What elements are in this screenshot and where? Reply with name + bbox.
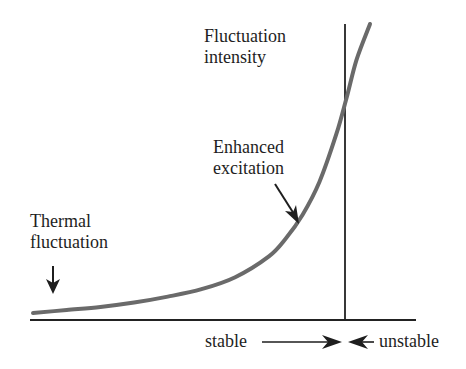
enhanced-excitation-arrow <box>275 184 299 224</box>
enhanced-excitation-label: Enhanced excitation <box>213 137 284 179</box>
fluctuation-curve <box>33 24 370 313</box>
thermal-fluctuation-label: Thermal fluctuation <box>30 211 108 253</box>
stable-arrow <box>262 335 342 349</box>
unstable-label: unstable <box>379 331 439 352</box>
stable-label: stable <box>205 331 247 352</box>
y-axis-label: Fluctuation intensity <box>204 26 286 68</box>
unstable-arrow <box>348 335 374 349</box>
thermal-arrow <box>46 266 60 294</box>
